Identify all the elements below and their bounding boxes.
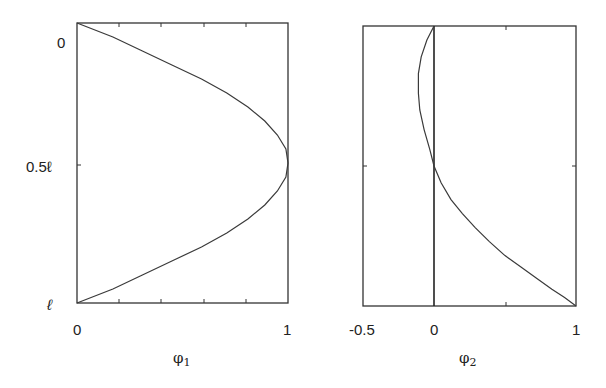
left-panel: 0 0.5ℓ ℓ 0 1 φ1 [26,23,291,369]
left-x-tick-1: 1 [283,321,291,338]
figure: 0 0.5ℓ ℓ 0 1 φ1 -0.5 0 1 φ2 [0,0,606,388]
left-y-tick-half: 0.5ℓ [26,158,52,175]
phi2-curve [418,26,576,306]
right-x-tick-1: 1 [572,321,580,338]
right-ticks [363,26,576,306]
left-x-axis-label: φ1 [173,349,191,369]
right-panel: -0.5 0 1 φ2 [349,26,580,369]
left-y-tick-0: 0 [57,34,65,51]
right-x-tick-0: 0 [430,321,438,338]
phi1-curve [77,23,288,303]
left-x-ticks [77,23,246,303]
right-plot-frame [363,26,576,306]
right-x-tick-neg-half: -0.5 [349,321,375,338]
left-plot-frame [77,23,288,303]
left-x-tick-0: 0 [73,321,81,338]
left-y-tick-l: ℓ [46,296,53,313]
right-x-axis-label: φ2 [459,349,477,369]
